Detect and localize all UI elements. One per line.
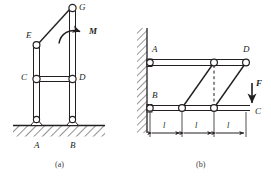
caption-b: (b) [196,160,205,169]
ground-support-a [13,126,105,137]
pin-support-B-wall [147,105,153,113]
pin-joint-top-mid [211,59,218,66]
pin-support-A-wall [147,59,153,67]
ground-hatch [13,126,105,137]
pin-joint-E [33,42,40,49]
label-point-B: B [70,140,76,150]
pin-joint-bottom-left [179,105,186,112]
pin-joint-bottom-mid [211,105,218,112]
panel-a-group [13,4,105,136]
label-moment-M: M [89,26,97,36]
label-point-G: G [79,2,86,12]
wall-support-b [137,28,147,133]
pin-joint-G [69,4,76,11]
pin-support-B [67,116,79,125]
wall-hatch [137,28,147,133]
pin-joint-D [243,59,250,66]
member-column-BG [70,10,76,119]
label-dim-3: l [227,120,229,130]
label-point-E: E [26,30,32,40]
pin-support-A [31,116,43,125]
label-b-point-D: D [243,44,250,54]
label-b-point-A: A [152,44,158,54]
member-beam-CD [38,77,71,82]
label-point-D: D [79,72,86,82]
label-dim-1: l [163,120,165,130]
member-top-chord-AD [150,60,248,66]
label-b-point-B: B [152,90,158,100]
label-b-point-C: C [255,106,261,116]
pin-joint-D [69,75,76,82]
figure-canvas [0,0,271,180]
member-bottom-chord-BC [150,106,250,111]
label-force-F: F [256,78,262,88]
member-diagonal-EG [38,9,70,44]
caption-a: (a) [55,160,64,169]
pin-joint-C [33,75,40,82]
engineering-figure: G E C D A B M (a) A D B C F l l l (b) [0,0,271,180]
member-diagonal-1 [182,63,214,109]
label-point-C: C [21,72,27,82]
member-diagonal-2 [214,63,246,109]
label-dim-2: l [195,120,197,130]
label-point-A: A [34,140,40,150]
